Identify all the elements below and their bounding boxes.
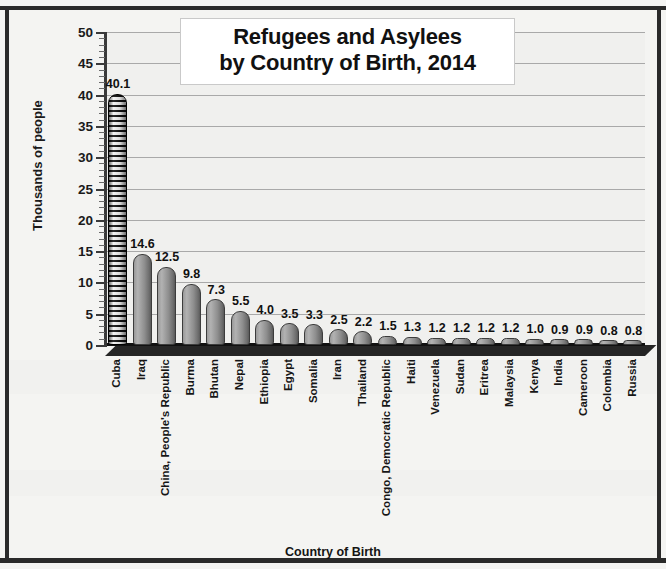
y-axis-tick [96, 251, 105, 253]
x-axis-category-label: Kenya [523, 359, 546, 529]
x-axis-category-label: Malaysia [499, 359, 522, 529]
category-label-text: Eritrea [480, 359, 492, 395]
category-label-text: Egypt [283, 359, 295, 391]
category-label-text: Russia [627, 359, 639, 397]
x-axis-category-label: Russia [621, 359, 644, 529]
x-axis-category-label: Venezuela [425, 359, 448, 529]
x-axis-category-label: Ethiopia [253, 359, 276, 529]
x-axis-category-label: China, People's Republic [155, 359, 178, 529]
bar[interactable] [574, 339, 593, 345]
y-axis-tick-label: 15 [67, 245, 93, 259]
scanned-page: 05101520253035404550 Thousands of people… [0, 0, 666, 569]
category-label-text: Iran [332, 359, 344, 380]
category-label-text: Venezuela [431, 359, 443, 415]
bar-slot: 14.6 [131, 32, 154, 345]
bar[interactable] [550, 339, 569, 345]
page-border-right [657, 6, 661, 563]
category-label-text: Malaysia [504, 359, 516, 407]
category-label-text: Kenya [529, 359, 541, 394]
x-axis-category-label: Iraq [131, 359, 154, 529]
y-axis-tick [96, 63, 105, 65]
bar-slot: 12.5 [155, 32, 178, 345]
x-axis-category-label: Nepal [229, 359, 252, 529]
bar[interactable] [304, 324, 323, 345]
x-axis-title: Country of Birth [9, 545, 657, 559]
bar[interactable] [623, 340, 642, 345]
bar[interactable] [501, 338, 520, 346]
category-label-text: Cuba [112, 359, 124, 388]
x-axis-category-label: Congo, Democratic Republic [376, 359, 399, 529]
bar[interactable] [427, 338, 446, 346]
y-axis-tick-label: 20 [67, 214, 93, 228]
y-axis-tick-label: 30 [67, 151, 93, 165]
bar-slot: 40.1 [106, 32, 129, 345]
y-axis-tick-label: 35 [67, 120, 93, 134]
y-axis-tick [96, 157, 105, 159]
y-axis-tick-label: 25 [67, 183, 93, 197]
x-axis-category-label: Thailand [351, 359, 374, 529]
y-axis-tick [96, 126, 105, 128]
y-axis-tick-label: 50 [67, 26, 93, 40]
bar[interactable] [525, 339, 544, 345]
x-axis-category-label: Colombia [597, 359, 620, 529]
category-label-text: Congo, Democratic Republic [382, 359, 394, 516]
x-axis-category-label: Somalia [302, 359, 325, 529]
chart-floor-3d [105, 345, 656, 356]
y-axis-tick-label: 5 [67, 308, 93, 322]
category-label-text: Burma [185, 359, 197, 395]
category-label-text: Nepal [234, 359, 246, 390]
bar[interactable] [403, 337, 422, 345]
category-label-text: Ethiopia [259, 359, 271, 404]
category-label-text: Colombia [602, 359, 614, 411]
bar[interactable] [599, 340, 618, 345]
y-axis-tick-label: 45 [67, 57, 93, 71]
y-axis-tick-labels: 05101520253035404550 [57, 10, 93, 359]
x-axis-category-labels: CubaIraqChina, People's RepublicBurmaBhu… [105, 359, 645, 539]
x-axis-category-label: Haiti [401, 359, 424, 529]
category-label-text: Haiti [406, 359, 418, 384]
chart-title-line-1: Refugees and Asylees [191, 24, 504, 50]
category-label-text: Sudan [455, 359, 467, 394]
y-axis-tick-label: 40 [67, 89, 93, 103]
x-axis-category-label: Iran [327, 359, 350, 529]
category-label-text: China, People's Republic [161, 359, 173, 496]
x-axis-category-label: Bhutan [204, 359, 227, 529]
category-label-text: Somalia [308, 359, 320, 403]
y-axis-tick-label: 10 [67, 276, 93, 290]
chart-title-line-2: by Country of Birth, 2014 [191, 50, 504, 76]
y-axis-tick-label: 0 [67, 339, 93, 353]
y-axis-tick [96, 314, 105, 316]
bar[interactable] [329, 329, 348, 345]
y-axis-tick [96, 189, 105, 191]
bar-slot: 1.0 [523, 32, 546, 345]
category-label-text: Iraq [136, 359, 148, 380]
y-axis-tick [96, 220, 105, 222]
bar[interactable] [255, 320, 274, 345]
bar[interactable] [108, 94, 127, 345]
y-axis-title: Thousands of people [30, 76, 45, 256]
bar[interactable] [378, 336, 397, 345]
bar[interactable] [476, 338, 495, 346]
bar[interactable] [280, 323, 299, 345]
x-axis-category-label: Egypt [278, 359, 301, 529]
bar-value-label: 0.8 [609, 325, 657, 338]
bar-slot: 0.9 [572, 32, 595, 345]
x-axis-category-label: Sudan [450, 359, 473, 529]
bar[interactable] [133, 254, 152, 345]
bar[interactable] [452, 338, 471, 346]
x-axis-category-label: Cameroon [572, 359, 595, 529]
category-label-text: Thailand [357, 359, 369, 406]
x-axis-category-label: Cuba [106, 359, 129, 529]
y-axis-tick [96, 345, 105, 347]
category-label-text: Cameroon [578, 359, 590, 416]
bar-slot: 0.9 [548, 32, 571, 345]
x-axis-category-label: India [548, 359, 571, 529]
category-label-text: Bhutan [210, 359, 222, 399]
y-axis-tick [96, 32, 105, 34]
bar-slot: 0.8 [621, 32, 644, 345]
bar[interactable] [353, 331, 372, 345]
x-axis-category-label: Eritrea [474, 359, 497, 529]
x-axis-category-label: Burma [180, 359, 203, 529]
bar-chart: 05101520253035404550 Thousands of people… [9, 10, 657, 559]
bar-slot: 0.8 [597, 32, 620, 345]
